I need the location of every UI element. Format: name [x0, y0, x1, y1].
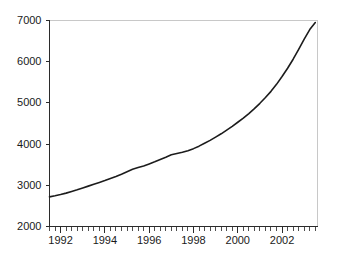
- y-tick-label-7000: 7000: [17, 14, 41, 26]
- x-tick-label-2000: 2000: [226, 234, 250, 246]
- plot-frame: [49, 20, 318, 227]
- x-tick-label-1994: 1994: [93, 234, 117, 246]
- x-tick-label-2002: 2002: [270, 234, 294, 246]
- y-axis-tick-labels: 200030004000500060007000: [17, 14, 41, 232]
- data-series-group: [50, 23, 316, 197]
- x-axis-tick-labels: 199219941996199820002002: [48, 234, 294, 246]
- x-tick-label-1992: 1992: [48, 234, 72, 246]
- x-tick-label-1996: 1996: [137, 234, 161, 246]
- chart-canvas: 200030004000500060007000 199219941996199…: [0, 0, 337, 262]
- x-axis-minor-ticks: [50, 227, 316, 231]
- x-tick-label-1998: 1998: [181, 234, 205, 246]
- y-axis-ticks: [46, 21, 50, 227]
- y-tick-label-5000: 5000: [17, 96, 41, 108]
- y-tick-label-4000: 4000: [17, 138, 41, 150]
- y-tick-label-2000: 2000: [17, 220, 41, 232]
- line-chart: 200030004000500060007000 199219941996199…: [0, 0, 337, 262]
- y-tick-label-6000: 6000: [17, 55, 41, 67]
- series-line-value: [50, 23, 316, 197]
- y-tick-label-3000: 3000: [17, 179, 41, 191]
